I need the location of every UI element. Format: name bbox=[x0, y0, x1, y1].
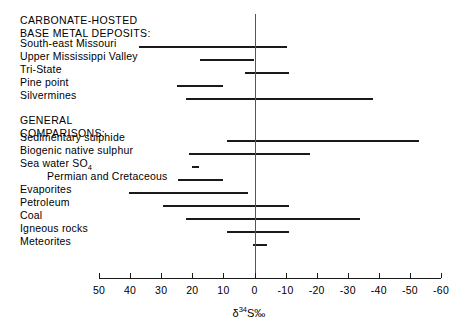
group-heading-carbonate-hosted-line1: CARBONATE-HOSTED bbox=[20, 14, 137, 26]
x-tick-neg50 bbox=[410, 273, 411, 278]
row-label-text: Sea water SO bbox=[20, 157, 88, 169]
row-label-south-east-missouri: South-east Missouri bbox=[20, 37, 117, 49]
row-label-evaporites: Evaporites bbox=[20, 183, 72, 195]
range-bar-evaporites bbox=[129, 192, 249, 194]
x-tick-label-40: 40 bbox=[114, 284, 146, 296]
row-label-text: Upper Mississippi Valley bbox=[20, 50, 138, 62]
row-label-text: Tri-State bbox=[20, 63, 62, 75]
x-tick-neg60 bbox=[441, 273, 442, 278]
range-bar-petroleum bbox=[163, 205, 289, 207]
x-tick-50 bbox=[99, 273, 100, 278]
row-label-text: Coal bbox=[20, 209, 42, 221]
x-tick-10 bbox=[223, 273, 224, 278]
x-tick-label-neg10: -10 bbox=[270, 284, 302, 296]
x-tick-20 bbox=[192, 273, 193, 278]
row-label-permian-and-cretaceous: Permian and Cretaceous bbox=[47, 170, 168, 182]
row-label-pine-point: Pine point bbox=[20, 76, 69, 88]
x-tick-label-50: 50 bbox=[83, 284, 115, 296]
row-label-petroleum: Petroleum bbox=[20, 196, 70, 208]
row-label-text: Permian and Cretaceous bbox=[47, 170, 168, 182]
x-tick-30 bbox=[161, 273, 162, 278]
row-label-igneous-rocks: Igneous rocks bbox=[20, 222, 88, 234]
zero-reference-line bbox=[255, 14, 256, 278]
row-label-biogenic-native-sulphur: Biogenic native sulphur bbox=[20, 144, 133, 156]
row-label-meteorites: Meteorites bbox=[20, 235, 71, 247]
range-bar-south-east-missouri bbox=[139, 46, 287, 48]
range-bar-tri-state bbox=[245, 72, 289, 74]
x-axis-line bbox=[99, 278, 441, 279]
x-tick-label-neg20: -20 bbox=[301, 284, 333, 296]
row-label-text: Pine point bbox=[20, 76, 69, 88]
x-tick-40 bbox=[130, 273, 131, 278]
row-label-text: Igneous rocks bbox=[20, 222, 88, 234]
range-bar-silvermines bbox=[186, 98, 373, 100]
x-tick-label-20: 20 bbox=[176, 284, 208, 296]
x-tick-label-0: 0 bbox=[239, 284, 271, 296]
x-tick-neg30 bbox=[348, 273, 349, 278]
row-label-text: Petroleum bbox=[20, 196, 70, 208]
sulphur-isotope-range-chart: CARBONATE-HOSTED BASE METAL DEPOSITS: GE… bbox=[0, 0, 471, 324]
x-tick-neg40 bbox=[379, 273, 380, 278]
range-bar-pine-point bbox=[177, 85, 224, 87]
range-bar-coal bbox=[186, 218, 360, 220]
x-tick-label-10: 10 bbox=[207, 284, 239, 296]
row-label-sedimentary-sulphide: Sedimentary sulphide bbox=[20, 131, 125, 143]
row-label-text: South-east Missouri bbox=[20, 37, 117, 49]
row-label-text: Meteorites bbox=[20, 235, 71, 247]
range-bar-igneous-rocks bbox=[227, 231, 289, 233]
x-tick-label-neg50: -50 bbox=[394, 284, 426, 296]
x-tick-neg10 bbox=[286, 273, 287, 278]
x-axis-title: δ34S‰ bbox=[233, 303, 266, 320]
row-label-tri-state: Tri-State bbox=[20, 63, 62, 75]
range-bar-permian-and-cretaceous bbox=[178, 179, 223, 181]
row-label-upper-mississippi-valley: Upper Mississippi Valley bbox=[20, 50, 138, 62]
row-label-silvermines: Silvermines bbox=[20, 89, 76, 101]
row-label-text: Biogenic native sulphur bbox=[20, 144, 133, 156]
axis-title-element: S‰ bbox=[247, 307, 265, 319]
group-heading-general-comparisons-line1: GENERAL bbox=[20, 114, 73, 126]
row-label-text: Evaporites bbox=[20, 183, 72, 195]
row-label-text: Silvermines bbox=[20, 89, 76, 101]
x-tick-0 bbox=[255, 273, 256, 278]
x-tick-label-neg40: -40 bbox=[363, 284, 395, 296]
axis-title-mass-number: 34 bbox=[239, 305, 247, 314]
x-tick-neg20 bbox=[317, 273, 318, 278]
row-label-text: Sedimentary sulphide bbox=[20, 131, 125, 143]
row-label-coal: Coal bbox=[20, 209, 42, 221]
x-tick-label-neg60: -60 bbox=[425, 284, 457, 296]
x-tick-label-30: 30 bbox=[145, 284, 177, 296]
range-bar-biogenic-native-sulphur bbox=[189, 153, 310, 155]
range-bar-upper-mississippi-valley bbox=[200, 59, 254, 61]
range-bar-sea-water-so4 bbox=[192, 166, 198, 168]
x-tick-label-neg30: -30 bbox=[332, 284, 364, 296]
